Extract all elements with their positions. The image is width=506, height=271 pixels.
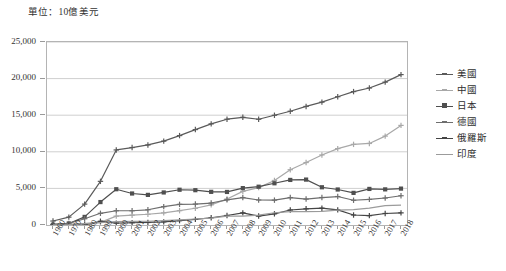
y-axis: 05,00010,00015,00020,00025,000 (0, 32, 44, 237)
y-axis-tick-mark (40, 224, 45, 225)
legend-marker-icon (436, 149, 453, 159)
y-axis-tick-mark (40, 114, 45, 115)
plot-area (46, 41, 408, 226)
legend-marker-icon (436, 101, 453, 111)
x-axis-tick-mark (226, 226, 227, 229)
legend-item-label: 日本 (457, 101, 477, 111)
x-axis-tick-mark (99, 226, 100, 229)
legend-marker-icon (436, 117, 453, 127)
legend-item-label: 中國 (457, 85, 477, 95)
x-axis-tick-mark (147, 226, 148, 229)
y-axis-tick-mark (40, 151, 45, 152)
y-axis-tick-label: 10,000 (11, 146, 36, 155)
unit-caption: 單位：10億美元 (28, 4, 99, 18)
legend-item-label: 德國 (457, 117, 477, 127)
x-axis-tick-mark (305, 226, 306, 229)
x-axis-tick-mark (353, 226, 354, 229)
x-axis-tick-mark (384, 226, 385, 229)
legend-item-label: 印度 (457, 149, 477, 159)
x-axis-tick-mark (321, 226, 322, 229)
legend-marker-icon (436, 69, 453, 79)
x-axis-tick-mark (194, 226, 195, 229)
x-axis-tick-mark (179, 226, 180, 229)
x-axis-tick-mark (242, 226, 243, 229)
legend-item-德國[interactable]: 德國 (436, 114, 506, 130)
legend-item-俄羅斯[interactable]: 俄羅斯 (436, 130, 506, 146)
y-axis-tick-label: 5,000 (16, 183, 36, 192)
legend-item-日本[interactable]: 日本 (436, 98, 506, 114)
y-axis-tick-label: 25,000 (11, 37, 36, 46)
x-axis-tick-mark (400, 226, 401, 229)
x-axis-tick-mark (289, 226, 290, 229)
x-axis-tick-mark (52, 226, 53, 229)
legend-item-label: 俄羅斯 (457, 133, 487, 143)
legend-item-印度[interactable]: 印度 (436, 146, 506, 162)
x-axis: 1960197019801990200020012002200320042005… (46, 228, 408, 271)
x-axis-tick-mark (368, 226, 369, 229)
legend-item-美國[interactable]: 美國 (436, 66, 506, 82)
y-axis-tick-label: 20,000 (11, 73, 36, 82)
series-lines (47, 42, 407, 225)
y-axis-tick-label: 0 (32, 220, 37, 229)
legend-item-中國[interactable]: 中國 (436, 82, 506, 98)
x-axis-tick-mark (115, 226, 116, 229)
x-axis-tick-mark (337, 226, 338, 229)
chart-legend: 美國中國日本德國俄羅斯印度 (436, 66, 506, 162)
x-axis-tick-mark (210, 226, 211, 229)
x-axis-tick-mark (131, 226, 132, 229)
legend-marker-icon (436, 133, 453, 143)
x-axis-tick-mark (68, 226, 69, 229)
x-axis-tick-mark (273, 226, 274, 229)
x-axis-tick-mark (258, 226, 259, 229)
x-axis-tick-mark (163, 226, 164, 229)
x-axis-tick-mark (84, 226, 85, 229)
y-axis-tick-mark (40, 187, 45, 188)
gdp-line-chart: 單位：10億美元 05,00010,00015,00020,00025,000 … (0, 0, 506, 271)
y-axis-tick-label: 15,000 (11, 110, 36, 119)
y-axis-tick-mark (40, 41, 45, 42)
legend-item-label: 美國 (457, 69, 477, 79)
y-axis-tick-mark (40, 78, 45, 79)
legend-marker-icon (436, 85, 453, 95)
